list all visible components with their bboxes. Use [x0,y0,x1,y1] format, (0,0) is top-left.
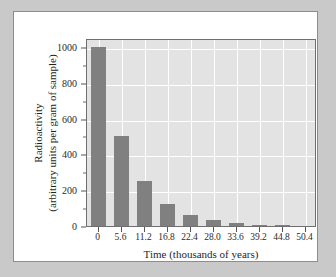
chart-page: 02004006008001000 05.611.216.822.428.033… [0,0,336,277]
y-axis-title-line-1: Radioactivity [32,103,46,162]
x-tick-label: 39.2 [250,233,267,243]
y-tick-mark [81,83,86,84]
x-tick-label: 16.8 [158,233,175,243]
y-tick-minor [83,65,86,66]
y-tick-label: 0 [72,222,77,232]
x-tick-label: 11.2 [135,233,151,243]
y-tick-minor [83,209,86,210]
x-tick-label: 0 [95,233,100,243]
y-tick-minor [83,173,86,174]
bar [160,204,174,226]
plot-area [86,39,316,227]
y-tick-mark [81,155,86,156]
gridline-vertical [168,40,169,226]
y-tick-mark [81,191,86,192]
x-axis-title: Time (thousands of years) [86,248,316,260]
bar [137,181,151,226]
gridline-vertical [260,40,261,226]
gridline-vertical [306,40,307,226]
bar [91,47,105,226]
x-tick-label: 50.4 [296,233,313,243]
figure-card: 02004006008001000 05.611.216.822.428.033… [13,11,318,262]
gridline-vertical [237,40,238,226]
bar [114,136,128,226]
y-tick-mark [81,47,86,48]
bar [206,220,220,226]
y-tick-minor [83,101,86,102]
gridline-vertical [214,40,215,226]
x-tick-label: 28.0 [204,233,221,243]
gridline-vertical [283,40,284,226]
y-tick-minor [83,137,86,138]
x-tick-label: 33.6 [227,233,244,243]
x-tick-label: 5.6 [115,233,127,243]
bar [275,225,289,226]
bar [229,223,243,226]
bar [252,225,266,226]
y-axis-title-line-2: (arbitrary units per gram of sample) [46,54,60,211]
y-axis-title: Radioactivity (arbitrary units per gram … [26,39,66,227]
y-tick-mark [81,119,86,120]
bar [183,215,197,226]
gridline-vertical [191,40,192,226]
x-tick-label: 22.4 [181,233,198,243]
x-tick-label: 44.8 [273,233,290,243]
